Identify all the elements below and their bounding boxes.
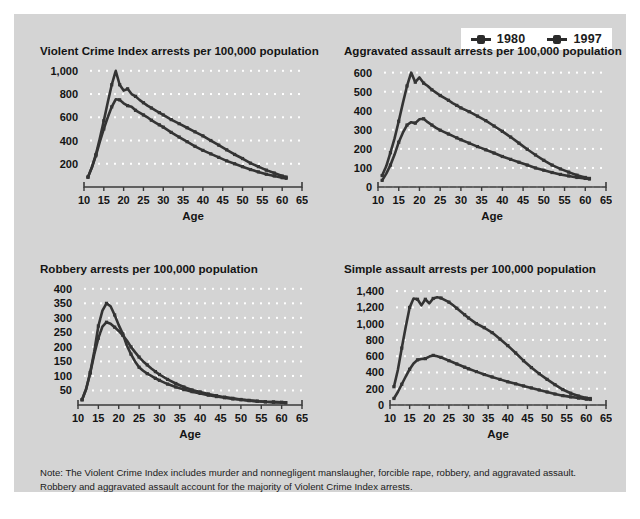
gridline-dot [140,346,142,348]
gridline-dot [132,389,134,391]
gridline-dot [436,323,438,325]
gridline-dot [568,91,570,93]
series-point [492,151,495,154]
series-point [455,362,458,365]
gridline-dot [540,323,542,325]
gridline-dot [292,375,294,377]
series-point [467,367,470,370]
gridline-dot [124,288,126,290]
gridline-dot [556,355,558,357]
gridline-dot [148,331,150,333]
gridline-dot [464,148,466,150]
gridline-dot [440,91,442,93]
x-tick-label: 15 [404,412,416,424]
series-point [405,84,408,87]
gridline-dot [250,93,252,95]
gridline-dot [560,148,562,150]
gridline-dot [140,331,142,333]
series-point [174,382,177,385]
gridline-dot [226,93,228,95]
gridline-dot [114,140,116,142]
gridline-dot [290,116,292,118]
gridline-dot [130,116,132,118]
series-point [575,174,578,177]
gridline-dot [420,323,422,325]
gridline-dot [148,302,150,304]
gridline-dot [552,110,554,112]
gridline-dot [178,116,180,118]
gridline-dot [520,110,522,112]
x-tick-label: 50 [236,194,248,206]
gridline-dot [196,302,198,304]
gridline-dot [228,389,230,391]
gridline-dot [548,339,550,341]
series-point [150,106,153,109]
gridline-dot [432,110,434,112]
gridline-dot [282,163,284,165]
series-point [569,395,572,398]
gridline-dot [588,339,590,341]
gridline-dot [468,371,470,373]
x-tick-label: 10 [384,412,396,424]
x-tick-label: 25 [137,194,149,206]
gridline-dot [604,355,606,357]
gridline-dot [524,323,526,325]
series-point [110,83,113,86]
gridline-dot [228,360,230,362]
y-tick-label: 0 [378,399,384,411]
gridline-dot [452,388,454,390]
gridline-dot [242,163,244,165]
gridline-dot [162,93,164,95]
gridline-dot [220,288,222,290]
gridline-dot [140,375,142,377]
gridline-dot [244,346,246,348]
series-point [158,123,161,126]
gridline-dot [496,72,498,74]
gridline-dot [420,371,422,373]
series-point [158,111,161,114]
series-point [257,165,260,168]
gridline-dot [604,323,606,325]
note-line-1: Note: The Violent Crime Index includes m… [40,466,616,480]
series-point [137,355,140,358]
series-point [178,135,181,138]
series-point [264,400,267,403]
series-point [381,179,384,182]
x-tick-label: 50 [541,412,553,424]
gridline-dot [428,306,430,308]
gridline-dot [180,317,182,319]
gridline-dot [148,346,150,348]
gridline-dot [188,360,190,362]
gridline-dot [268,360,270,362]
series-point [430,88,433,91]
gridline-dot [548,323,550,325]
gridline-dot [504,72,506,74]
gridline-dot [392,110,394,112]
gridline-dot [116,375,118,377]
gridline-dot [492,290,494,292]
gridline-dot [384,110,386,112]
gridline-dot [132,331,134,333]
gridline-dot [274,140,276,142]
gridline-dot [172,346,174,348]
series-point [509,135,512,138]
gridline-dot [548,290,550,292]
gridline-dot [556,388,558,390]
gridline-dot [480,167,482,169]
gridline-dot [292,317,294,319]
gridline-dot [172,375,174,377]
gridline-dot [220,346,222,348]
gridline-dot [138,140,140,142]
gridline-dot [480,91,482,93]
gridline-dot [472,148,474,150]
gridline-dot [600,167,602,169]
gridline-dot [420,290,422,292]
gridline-dot [258,163,260,165]
gridline-dot [520,72,522,74]
y-tick-label: 200 [366,383,384,395]
gridline-dot [516,371,518,373]
gridline-dot [188,375,190,377]
gridline-dot [552,148,554,150]
gridline-dot [196,288,198,290]
y-tick-label: 400 [60,135,78,147]
